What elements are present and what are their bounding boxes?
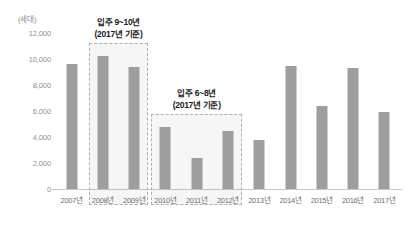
bar — [316, 106, 327, 189]
annotation-line-2: (2017년 기준) — [59, 28, 179, 40]
x-axis-tick-label: 2011년 — [186, 194, 208, 205]
annotation-line-2: (2017년 기준) — [121, 99, 272, 111]
bar — [129, 67, 140, 189]
y-axis-tick-label: 2,000 — [33, 159, 51, 168]
chart-page: (세대) 02,0004,0006,0008,00010,00012,000 입… — [0, 0, 412, 227]
y-axis-tick-label: 0 — [47, 185, 51, 194]
bar — [254, 140, 265, 189]
bar — [379, 112, 390, 189]
bar — [285, 66, 296, 190]
x-axis-tick-label: 2008년 — [92, 194, 114, 205]
x-axis-tick-label: 2017년 — [373, 194, 395, 205]
y-axis-tick-label: 12,000 — [29, 29, 51, 38]
x-axis-tick-label: 2016년 — [342, 194, 364, 205]
x-axis-tick-label: 2013년 — [248, 194, 270, 205]
y-axis: 02,0004,0006,0008,00010,00012,000 — [0, 0, 51, 227]
annotation-1: 입주 9~10년(2017년 기준) — [59, 16, 179, 40]
x-axis-tick-label: 2007년 — [61, 194, 83, 205]
bar — [97, 56, 108, 189]
y-axis-tick-label: 8,000 — [33, 81, 51, 90]
bar — [66, 64, 77, 189]
bar — [348, 68, 359, 189]
annotation-2: 입주 6~8년(2017년 기준) — [121, 87, 272, 111]
bar — [223, 131, 234, 190]
annotation-line-1: 입주 9~10년 — [59, 16, 179, 28]
y-axis-tick-label: 4,000 — [33, 133, 51, 142]
bar — [160, 127, 171, 189]
x-axis-tick-label: 2015년 — [311, 194, 333, 205]
bar — [191, 158, 202, 189]
y-axis-tick-label: 10,000 — [29, 55, 51, 64]
plot-area — [56, 33, 400, 189]
x-axis-tick-label: 2010년 — [154, 194, 176, 205]
x-axis-tick-label: 2012년 — [217, 194, 239, 205]
y-axis-tick-label: 6,000 — [33, 107, 51, 116]
x-axis-tick-label: 2014년 — [279, 194, 301, 205]
x-axis-tick-label: 2009년 — [123, 194, 145, 205]
annotation-line-1: 입주 6~8년 — [121, 87, 272, 99]
